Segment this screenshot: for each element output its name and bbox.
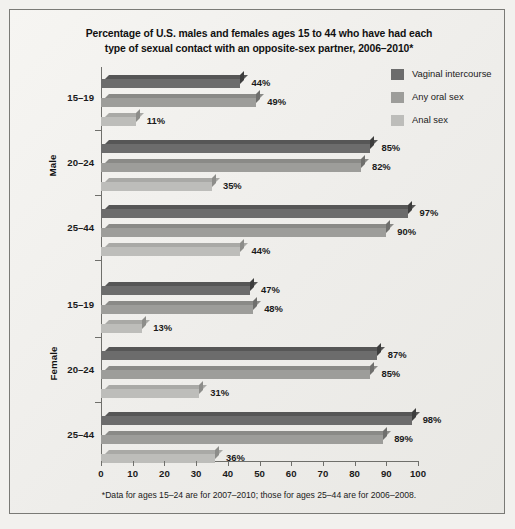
age-group-label: 15–19 [24, 299, 94, 310]
bar [101, 178, 217, 191]
bar-value-label: 48% [264, 303, 283, 314]
bar-value-label: 44% [251, 77, 270, 88]
bar [101, 140, 375, 153]
age-group-label: 25–44 [24, 222, 94, 233]
legend-label: Vaginal intercourse [412, 68, 492, 79]
bar [101, 450, 220, 463]
bar-front-face [101, 182, 212, 191]
bar [101, 385, 204, 398]
bar-front-face [101, 144, 370, 153]
bar-side-face [370, 136, 374, 149]
bar-top-face [105, 178, 220, 182]
bar-value-label: 89% [394, 433, 413, 444]
bar-top-face [105, 431, 391, 435]
bar-front-face [101, 163, 361, 172]
x-axis-tick-label: 0 [86, 468, 116, 479]
bar-top-face [105, 159, 369, 163]
group-separator-tick [95, 195, 101, 196]
bar-value-label: 44% [251, 245, 270, 256]
bar-value-label: 49% [267, 96, 286, 107]
bar-front-face [101, 351, 377, 360]
bar-front-face [101, 305, 253, 314]
bar-front-face [101, 98, 256, 107]
bar-top-face [105, 205, 416, 209]
bar-side-face [377, 343, 381, 356]
x-axis-tick [323, 461, 324, 466]
x-axis-tick-label: 60 [276, 468, 306, 479]
x-axis-tick-label: 30 [181, 468, 211, 479]
bar-value-label: 82% [372, 161, 391, 172]
x-axis-tick [418, 461, 419, 466]
bar [101, 366, 375, 379]
bar-value-label: 36% [226, 452, 245, 463]
bar-front-face [101, 209, 408, 218]
x-axis-tick [260, 461, 261, 466]
bar-top-face [105, 243, 248, 247]
bar [101, 412, 417, 425]
bar-value-label: 47% [261, 284, 280, 295]
bar [101, 94, 261, 107]
x-axis-tick-label: 70 [308, 468, 338, 479]
bar-top-face [105, 347, 385, 351]
bar-front-face [101, 324, 142, 333]
group-separator-tick [95, 402, 101, 403]
bar-side-face [412, 408, 416, 421]
bar-front-face [101, 79, 240, 88]
bar-front-face [101, 228, 386, 237]
bar-top-face [105, 282, 258, 286]
bar-front-face [101, 454, 215, 463]
age-group-label: 25–44 [24, 429, 94, 440]
bar-front-face [101, 435, 383, 444]
x-axis-tick [228, 461, 229, 466]
bar-top-face [105, 94, 264, 98]
x-axis-tick [133, 461, 134, 466]
bar-value-label: 87% [388, 349, 407, 360]
bar-value-label: 98% [423, 414, 442, 425]
bar-value-label: 31% [210, 387, 229, 398]
chart-footnote: *Data for ages 15–24 are for 2007–2010; … [34, 490, 484, 500]
bar-side-face [212, 174, 216, 187]
bar-side-face [215, 446, 219, 459]
bar-top-face [105, 450, 223, 454]
bar-front-face [101, 389, 199, 398]
x-axis-tick [164, 461, 165, 466]
group-label-female: Female [48, 341, 59, 387]
legend-label: Any oral sex [412, 91, 464, 102]
age-group-label: 15–19 [24, 92, 94, 103]
bar [101, 243, 245, 256]
x-axis-tick-label: 40 [213, 468, 243, 479]
x-axis-tick-label: 90 [371, 468, 401, 479]
age-group-label: 20–24 [24, 157, 94, 168]
group-separator-tick [95, 130, 101, 131]
bar-side-face [136, 109, 140, 122]
bar-value-label: 85% [381, 142, 400, 153]
bar-top-face [105, 366, 378, 370]
chart-title: Percentage of U.S. males and females age… [34, 26, 484, 56]
bar-front-face [101, 370, 370, 379]
group-separator-tick [95, 260, 101, 261]
x-axis-tick [291, 461, 292, 466]
bar-top-face [105, 301, 261, 305]
x-axis-tick [101, 461, 102, 466]
bar-side-face [253, 297, 257, 310]
bar-side-face [370, 362, 374, 375]
bar-side-face [142, 316, 146, 329]
bar [101, 75, 245, 88]
age-group-label: 20–24 [24, 364, 94, 375]
bar-top-face [105, 224, 394, 228]
bar-side-face [240, 71, 244, 84]
chart-frame: Percentage of U.S. males and females age… [9, 9, 505, 514]
bar-front-face [101, 247, 240, 256]
bar [101, 431, 388, 444]
bar-top-face [105, 412, 420, 416]
bar [101, 159, 366, 172]
group-label-male: Male [47, 146, 58, 186]
bar-value-label: 85% [381, 368, 400, 379]
bar-front-face [101, 286, 250, 295]
bar-side-face [383, 427, 387, 440]
bar-value-label: 90% [397, 226, 416, 237]
bar-side-face [199, 381, 203, 394]
bar-value-label: 11% [147, 115, 165, 126]
bar-side-face [386, 220, 390, 233]
bar-top-face [105, 140, 378, 144]
